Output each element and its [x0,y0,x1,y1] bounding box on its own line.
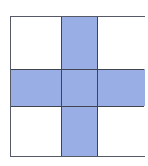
cell-r1-c2 [97,69,145,106]
cell-r1-c1 [61,69,97,106]
cell-r2-c1 [61,106,97,156]
grid-vline-2 [97,17,98,156]
cell-r2-c2 [97,106,145,156]
cell-r0-c2 [97,17,145,69]
cell-r1-c0 [11,69,61,106]
cell-r0-c1 [61,17,97,69]
cell-r2-c0 [11,106,61,156]
grid-hline-2 [11,106,144,107]
cross-grid-figure [10,16,145,157]
cell-r0-c0 [11,17,61,69]
grid-vline-1 [61,17,62,156]
grid-hline-1 [11,69,144,70]
